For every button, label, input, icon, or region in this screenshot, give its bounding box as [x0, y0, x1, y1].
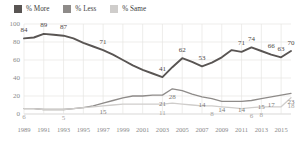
legend-swatch-same — [110, 5, 118, 13]
legend-swatch-more — [14, 5, 22, 13]
x-tick-label: 1995 — [77, 126, 90, 134]
x-tick-label: 2003 — [156, 126, 169, 134]
chart-container: % More % Less % Same 020406080100 848987… — [0, 0, 296, 142]
plot-area — [0, 18, 296, 125]
legend-label-more: % More — [26, 5, 49, 13]
x-tick-label: 2011 — [235, 126, 248, 134]
series-line-same — [24, 98, 291, 110]
legend-label-same: % Same — [122, 5, 146, 13]
plot-svg — [0, 18, 296, 125]
x-axis-labels: 1989199119931995199719992001200320052007… — [0, 126, 296, 140]
legend-swatch-less — [63, 5, 71, 13]
x-tick-label: 1997 — [97, 126, 110, 134]
x-tick-label: 1989 — [17, 126, 30, 134]
legend-item-more: % More — [14, 5, 49, 13]
legend-item-same: % Same — [110, 5, 146, 13]
x-tick-label: 1993 — [57, 126, 70, 134]
series-line-less — [24, 89, 291, 110]
x-tick-label: 1991 — [37, 126, 50, 134]
x-tick-label: 2001 — [136, 126, 149, 134]
x-tick-label: 1999 — [116, 126, 129, 134]
x-tick-label: 2005 — [176, 126, 189, 134]
legend-label-less: % Less — [75, 5, 96, 13]
series-line-more — [24, 34, 291, 77]
series-lines — [24, 34, 291, 110]
legend-item-less: % Less — [63, 5, 96, 13]
x-tick-label: 2013 — [255, 126, 268, 134]
x-tick-label: 2009 — [215, 126, 228, 134]
x-tick-label: 2015 — [275, 126, 288, 134]
x-tick-label: 2007 — [195, 126, 208, 134]
chart-legend: % More % Less % Same — [14, 3, 146, 14]
